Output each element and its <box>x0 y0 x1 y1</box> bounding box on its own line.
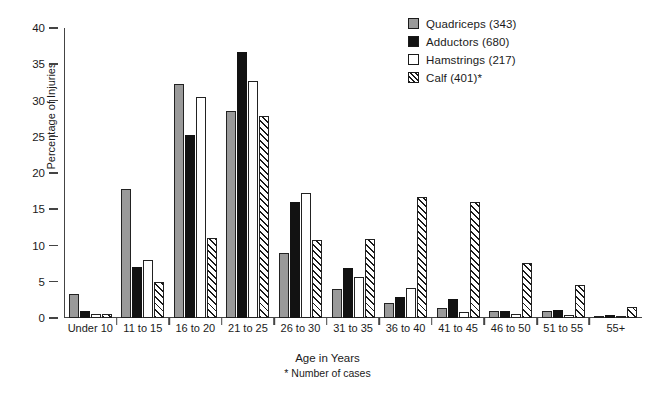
bar-calf-2[interactable] <box>207 238 217 318</box>
bar-calf-9[interactable] <box>575 285 585 318</box>
x-axis-label: 46 to 50 <box>484 322 537 334</box>
x-axis-label: Under 10 <box>64 322 117 334</box>
y-tick-mark <box>49 63 58 65</box>
bar-hamstrings-0[interactable] <box>91 314 101 318</box>
y-tick-label: 25 <box>5 129 45 145</box>
bar-adductors-9[interactable] <box>553 310 563 318</box>
bar-hamstrings-9[interactable] <box>564 315 574 318</box>
bar-group <box>64 28 117 318</box>
bar-adductors-10[interactable] <box>605 315 615 318</box>
bar-adductors-2[interactable] <box>185 135 195 318</box>
bar-quadriceps-3[interactable] <box>226 111 236 318</box>
bar-group <box>537 28 590 318</box>
bar-calf-1[interactable] <box>154 282 164 318</box>
y-tick-label: 20 <box>5 165 45 181</box>
y-tick-label: 30 <box>5 93 45 109</box>
bar-quadriceps-4[interactable] <box>279 253 289 318</box>
bar-adductors-6[interactable] <box>395 297 405 318</box>
bar-hamstrings-8[interactable] <box>511 314 521 318</box>
y-tick-label: 15 <box>5 201 45 217</box>
bar-quadriceps-0[interactable] <box>69 294 79 318</box>
bar-quadriceps-8[interactable] <box>489 311 499 318</box>
bar-adductors-7[interactable] <box>448 299 458 318</box>
x-axis-labels: Under 1011 to 1516 to 2021 to 2526 to 30… <box>64 322 642 334</box>
bar-adductors-0[interactable] <box>80 311 90 318</box>
bar-adductors-3[interactable] <box>237 52 247 318</box>
x-axis-label: 41 to 45 <box>432 322 485 334</box>
bar-quadriceps-2[interactable] <box>174 84 184 318</box>
y-tick-mark <box>49 281 58 283</box>
bar-adductors-5[interactable] <box>343 268 353 318</box>
bar-quadriceps-5[interactable] <box>332 289 342 318</box>
bar-quadriceps-9[interactable] <box>542 311 552 318</box>
bar-calf-6[interactable] <box>417 197 427 318</box>
bar-hamstrings-4[interactable] <box>301 193 311 318</box>
bar-calf-7[interactable] <box>470 202 480 318</box>
y-tick-label: 35 <box>5 56 45 72</box>
bar-calf-5[interactable] <box>365 239 375 318</box>
y-tick-label: 10 <box>5 238 45 254</box>
x-axis-label: 55+ <box>589 322 642 334</box>
bar-hamstrings-7[interactable] <box>459 312 469 318</box>
y-tick-label: 5 <box>5 274 45 290</box>
bar-group <box>274 28 327 318</box>
bar-calf-0[interactable] <box>102 314 112 318</box>
x-axis-label: 36 to 40 <box>379 322 432 334</box>
bar-quadriceps-10[interactable] <box>594 316 604 318</box>
y-tick-mark <box>49 172 58 174</box>
bar-hamstrings-5[interactable] <box>354 277 364 318</box>
bar-adductors-8[interactable] <box>500 311 510 318</box>
bar-group <box>117 28 170 318</box>
y-tick-mark <box>49 136 58 138</box>
bar-quadriceps-1[interactable] <box>121 189 131 318</box>
bar-group <box>169 28 222 318</box>
y-tick-label: 0 <box>5 310 45 326</box>
bar-calf-10[interactable] <box>627 307 637 318</box>
y-tick-mark <box>49 317 58 319</box>
x-axis-label: 51 to 55 <box>537 322 590 334</box>
x-axis-label: 31 to 35 <box>327 322 380 334</box>
bar-group <box>379 28 432 318</box>
bar-hamstrings-1[interactable] <box>143 260 153 318</box>
bar-quadriceps-6[interactable] <box>384 303 394 318</box>
bar-hamstrings-10[interactable] <box>616 316 626 318</box>
bar-group <box>327 28 380 318</box>
bar-quadriceps-7[interactable] <box>437 308 447 318</box>
bar-group <box>222 28 275 318</box>
bar-calf-4[interactable] <box>312 240 322 318</box>
bar-group <box>589 28 642 318</box>
bar-hamstrings-6[interactable] <box>406 288 416 318</box>
bar-groups <box>64 28 642 318</box>
injury-percentage-bar-chart: Quadriceps (343)Adductors (680)Hamstring… <box>0 0 655 395</box>
footnote: * Number of cases <box>0 367 655 379</box>
bar-group <box>484 28 537 318</box>
bar-hamstrings-3[interactable] <box>248 81 258 318</box>
x-axis-title: Age in Years <box>0 352 655 364</box>
y-tick-mark <box>49 208 58 210</box>
bar-calf-3[interactable] <box>259 116 269 318</box>
y-tick-mark <box>49 27 58 29</box>
x-axis-label: 11 to 15 <box>117 322 170 334</box>
bar-adductors-1[interactable] <box>132 267 142 318</box>
x-axis-label: 26 to 30 <box>274 322 327 334</box>
bar-group <box>432 28 485 318</box>
x-axis-label: 21 to 25 <box>222 322 275 334</box>
y-axis: 0510152025303540 <box>0 0 64 318</box>
bar-hamstrings-2[interactable] <box>196 97 206 318</box>
bar-adductors-4[interactable] <box>290 202 300 318</box>
bar-calf-8[interactable] <box>522 263 532 318</box>
x-axis-label: 16 to 20 <box>169 322 222 334</box>
y-tick-label: 40 <box>5 20 45 36</box>
y-tick-mark <box>49 100 58 102</box>
y-tick-mark <box>49 245 58 247</box>
